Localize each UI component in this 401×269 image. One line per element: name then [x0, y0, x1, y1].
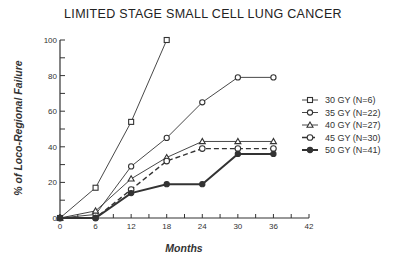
diamond-marker-icon	[200, 100, 205, 105]
series-30-gy	[58, 38, 170, 221]
circle-marker-icon	[271, 146, 277, 152]
filled-circle-marker-icon	[271, 151, 276, 156]
diamond-marker-icon	[307, 110, 312, 115]
square-marker-icon	[164, 38, 169, 43]
x-tick-label: 42	[305, 222, 314, 231]
legend-label: 50 GY (N=41)	[325, 145, 381, 155]
filled-circle-marker-icon	[235, 151, 240, 156]
chart: LIMITED STAGE SMALL CELL LUNG CANCER 061…	[0, 0, 401, 269]
triangle-marker-icon	[128, 176, 134, 181]
legend-label: 35 GY (N=22)	[325, 108, 381, 118]
legend-item: 40 GY (N=27)	[302, 120, 381, 130]
square-marker-icon	[93, 185, 98, 190]
x-tick-label: 0	[58, 222, 63, 231]
axes: 06121824303642020406080100	[44, 36, 314, 231]
y-axis-label: % of Loco-Regional Failure	[12, 60, 24, 196]
chart-title: LIMITED STAGE SMALL CELL LUNG CANCER	[64, 7, 342, 21]
plot-area	[57, 38, 276, 221]
legend-label: 30 GY (N=6)	[325, 95, 376, 105]
series-35-gy	[57, 75, 276, 221]
diamond-marker-icon	[271, 75, 276, 80]
legend: 30 GY (N=6)35 GY (N=22)40 GY (N=27)45 GY…	[302, 95, 381, 155]
x-tick-label: 30	[233, 222, 242, 231]
legend-item: 30 GY (N=6)	[302, 95, 376, 105]
legend-item: 35 GY (N=22)	[302, 108, 381, 118]
legend-label: 40 GY (N=27)	[325, 120, 381, 130]
filled-circle-marker-icon	[164, 182, 169, 187]
series-line	[60, 40, 167, 218]
x-tick-label: 12	[127, 222, 136, 231]
diamond-marker-icon	[235, 75, 240, 80]
y-tick-label: 100	[44, 36, 58, 45]
legend-item: 45 GY (N=30)	[302, 133, 381, 143]
legend-item: 50 GY (N=41)	[302, 145, 381, 155]
series-40-gy	[57, 138, 276, 220]
x-tick-label: 24	[198, 222, 207, 231]
y-tick-label: 60	[48, 107, 57, 116]
circle-marker-icon	[307, 135, 313, 141]
filled-circle-marker-icon	[93, 215, 98, 220]
x-tick-label: 18	[162, 222, 171, 231]
legend-label: 45 GY (N=30)	[325, 133, 381, 143]
y-tick-label: 40	[48, 143, 57, 152]
filled-circle-marker-icon	[57, 215, 62, 220]
triangle-marker-icon	[235, 138, 241, 143]
circle-marker-icon	[199, 146, 205, 152]
circle-marker-icon	[164, 158, 170, 164]
y-tick-label: 20	[48, 178, 57, 187]
square-marker-icon	[308, 98, 313, 103]
filled-circle-marker-icon	[307, 147, 312, 152]
x-axis-label: Months	[165, 242, 202, 254]
triangle-marker-icon	[270, 138, 276, 143]
x-tick-label: 36	[269, 222, 278, 231]
filled-circle-marker-icon	[129, 190, 134, 195]
square-marker-icon	[129, 119, 134, 124]
series-line	[60, 77, 273, 218]
x-tick-label: 6	[93, 222, 98, 231]
circle-marker-icon	[235, 146, 241, 152]
diamond-marker-icon	[164, 135, 169, 140]
diamond-marker-icon	[129, 164, 134, 169]
y-tick-label: 80	[48, 72, 57, 81]
triangle-marker-icon	[199, 138, 205, 143]
triangle-marker-icon	[307, 122, 313, 127]
filled-circle-marker-icon	[200, 182, 205, 187]
